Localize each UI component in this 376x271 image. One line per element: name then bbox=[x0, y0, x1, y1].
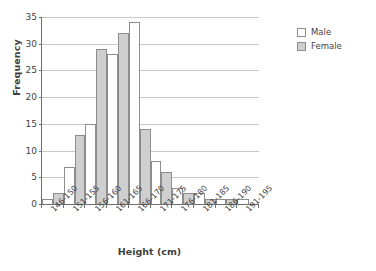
bar-group bbox=[151, 17, 173, 204]
bar-group bbox=[172, 17, 194, 204]
bar-group bbox=[85, 17, 107, 204]
y-tick-label: 10 bbox=[26, 146, 37, 155]
female-swatch-icon bbox=[297, 42, 306, 51]
legend-label-male: Male bbox=[311, 28, 331, 37]
legend-item-female: Female bbox=[297, 42, 367, 51]
bar-group bbox=[237, 17, 259, 204]
x-axis-labels-group: 146-150151-155156-160161-165166-170171-1… bbox=[41, 208, 258, 248]
bar-group bbox=[194, 17, 216, 204]
bar-group bbox=[107, 17, 129, 204]
legend-label-female: Female bbox=[311, 42, 342, 51]
male-swatch-icon bbox=[297, 28, 306, 37]
y-tick-label: 30 bbox=[26, 39, 37, 48]
bar-male-161-165 bbox=[107, 54, 118, 204]
bar-group bbox=[64, 17, 86, 204]
y-tick-label: 20 bbox=[26, 93, 37, 102]
y-axis-title: Frequency bbox=[11, 13, 22, 123]
y-tick-label: 15 bbox=[26, 119, 37, 128]
bar-female-156-160 bbox=[96, 49, 107, 204]
bar-group bbox=[129, 17, 151, 204]
bar-group bbox=[42, 17, 64, 204]
legend-item-male: Male bbox=[297, 28, 367, 37]
plot-area: 05101520253035 bbox=[41, 17, 259, 205]
y-tick-label: 5 bbox=[31, 173, 37, 182]
y-tick-label: 0 bbox=[31, 200, 37, 209]
bar-group bbox=[216, 17, 238, 204]
y-tick-label: 35 bbox=[26, 13, 37, 22]
bars-group bbox=[42, 17, 259, 204]
bar-female-161-165 bbox=[118, 33, 129, 204]
bar-male-166-170 bbox=[129, 22, 140, 204]
histogram-chart: Frequency 05101520253035 146-150151-1551… bbox=[0, 0, 376, 271]
y-tick-label: 25 bbox=[26, 66, 37, 75]
chart-legend: Male Female bbox=[297, 28, 367, 56]
x-axis-title: Height (cm) bbox=[41, 246, 258, 257]
